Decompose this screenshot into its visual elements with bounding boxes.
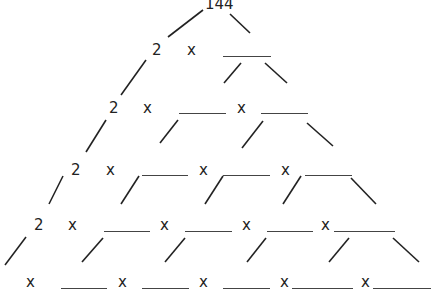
- answer-blank[interactable]: [373, 288, 431, 289]
- branch-line: [351, 178, 376, 204]
- branch-line: [160, 120, 178, 143]
- multiply-sign: x: [160, 217, 169, 233]
- answer-blank[interactable]: [334, 231, 395, 232]
- factor-value: 2: [71, 162, 81, 178]
- answer-blank[interactable]: [223, 175, 270, 176]
- factor-value: 2: [152, 42, 162, 58]
- multiply-sign: x: [199, 274, 208, 290]
- answer-blank[interactable]: [261, 113, 308, 114]
- answer-blank[interactable]: [267, 231, 313, 232]
- branch-line: [205, 176, 223, 204]
- root-number: 144: [205, 0, 234, 12]
- branch-lines: [0, 0, 431, 301]
- branch-line: [307, 123, 333, 146]
- multiply-sign: x: [143, 100, 152, 116]
- answer-blank[interactable]: [179, 113, 226, 114]
- multiply-sign: x: [199, 162, 208, 178]
- answer-blank[interactable]: [305, 175, 352, 176]
- multiply-sign: x: [26, 274, 35, 290]
- answer-blank[interactable]: [142, 175, 188, 176]
- branch-line: [82, 238, 103, 262]
- multiply-sign: x: [281, 162, 290, 178]
- branch-line: [393, 238, 419, 262]
- multiply-sign: x: [187, 42, 196, 58]
- answer-blank[interactable]: [61, 288, 107, 289]
- branch-line: [329, 238, 349, 262]
- factor-value: 2: [109, 100, 119, 116]
- branch-line: [121, 60, 146, 95]
- multiply-sign: x: [242, 217, 251, 233]
- answer-blank[interactable]: [223, 56, 271, 57]
- branch-line: [247, 238, 266, 262]
- branch-line: [165, 238, 185, 262]
- answer-blank[interactable]: [142, 288, 189, 289]
- answer-blank[interactable]: [292, 288, 353, 289]
- factor-tree: 144 2x2xx2xxx2xxxxxxxxx: [0, 0, 431, 301]
- answer-blank[interactable]: [223, 288, 270, 289]
- multiply-sign: x: [237, 100, 246, 116]
- multiply-sign: x: [361, 274, 370, 290]
- multiply-sign: x: [118, 274, 127, 290]
- branch-line: [168, 10, 203, 37]
- answer-blank[interactable]: [104, 231, 150, 232]
- branch-line: [121, 176, 139, 204]
- multiply-sign: x: [68, 217, 77, 233]
- branch-line: [224, 63, 241, 83]
- multiply-sign: x: [280, 274, 289, 290]
- multiply-sign: x: [106, 162, 115, 178]
- multiply-sign: x: [321, 217, 330, 233]
- branch-line: [230, 14, 250, 33]
- branch-line: [49, 176, 63, 204]
- branch-line: [283, 176, 301, 204]
- factor-value: 2: [34, 217, 44, 233]
- answer-blank[interactable]: [185, 231, 232, 232]
- branch-line: [242, 121, 263, 148]
- branch-line: [265, 63, 287, 83]
- branch-line: [86, 120, 106, 152]
- branch-line: [5, 237, 26, 265]
